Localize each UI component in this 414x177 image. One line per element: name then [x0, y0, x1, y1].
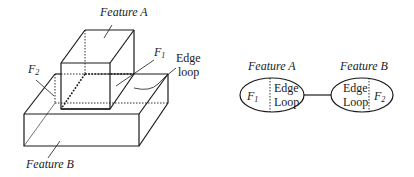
node-b-face: F2 [373, 89, 385, 104]
node-a-loop-line2: Loop [274, 95, 299, 109]
feature-b-leader [48, 141, 60, 158]
feature-a-block [61, 30, 134, 109]
node-a-loop-line1: Edge [274, 81, 299, 95]
f2-leader [36, 80, 54, 96]
f2-label: F2 [27, 62, 39, 77]
node-feature-a: Feature A F1 Edge Loop [240, 59, 304, 112]
feature-b-block [24, 74, 168, 146]
feature-b-label: Feature B [25, 157, 75, 171]
diagram-canvas: Feature A F1 Edge loop F2 Feature B Feat… [0, 0, 414, 177]
node-b-title: Feature B [339, 59, 389, 73]
node-feature-b: Feature B Edge Loop F2 [331, 59, 393, 112]
node-a-face: F1 [246, 89, 258, 104]
edge-label: Edge [176, 51, 201, 65]
node-a-title: Feature A [247, 59, 296, 73]
loop-label: loop [178, 65, 199, 79]
edge-loop-leader [166, 68, 176, 76]
node-b-loop-line1: Edge [343, 81, 368, 95]
node-b-loop-line2: Loop [343, 95, 368, 109]
f1-leader [116, 60, 154, 86]
feature-a-leader [104, 25, 112, 38]
feature-a-label: Feature A [99, 5, 148, 19]
f1-label: F1 [153, 45, 165, 60]
